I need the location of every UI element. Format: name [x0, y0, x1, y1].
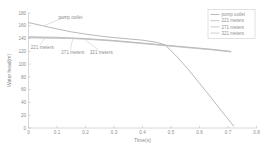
annotation-leader-line [86, 40, 99, 50]
chart-figure: 00.10.20.30.40.50.60.70.8020406080100120… [0, 0, 271, 149]
x-tick-label: 0.3 [111, 130, 118, 135]
y-tick-label: 160 [18, 23, 26, 28]
y-tick-label: 140 [18, 36, 26, 41]
x-tick-label: 0.1 [54, 130, 61, 135]
y-tick-label: 100 [18, 62, 26, 67]
legend-group: pump outlet221 meters271 meters321 meter… [208, 10, 255, 39]
legend-label-221-meters: 221 meters [222, 18, 245, 23]
x-tick-label: 0.5 [168, 130, 175, 135]
y-tick-label: 60 [21, 87, 27, 92]
y-axis-title: Water head(m) [6, 54, 12, 87]
y-tick-label: 80 [21, 75, 27, 80]
legend-label-pump-outlet: pump outlet [222, 12, 246, 17]
x-tick-label: 0.7 [225, 130, 232, 135]
y-tick-label: 40 [21, 100, 27, 105]
x-tick-label: 0.4 [139, 130, 146, 135]
x-tick-label: 0.2 [82, 130, 89, 135]
annotations-group: pump outlet221 meters271 meters321 meter… [31, 15, 114, 55]
y-tick-label: 180 [18, 11, 26, 16]
x-tick-label: 0.8 [253, 130, 260, 135]
y-tick-label: 20 [21, 113, 27, 118]
annotation-label-321-meters: 321 meters [90, 50, 114, 55]
x-tick-label: 0 [27, 130, 30, 135]
annotation-label-221-meters: 221 meters [31, 45, 55, 50]
annotation-label-pump-outlet: pump outlet [58, 15, 83, 20]
y-tick-label: 120 [18, 49, 26, 54]
legend-label-321-meters: 321 meters [222, 31, 245, 36]
series-line-321-meters [29, 38, 231, 52]
x-axis-title: Time(s) [134, 137, 151, 143]
legend-label-271-meters: 271 meters [222, 25, 245, 30]
annotation-leader-line [70, 39, 72, 50]
y-tick-label: 0 [24, 126, 27, 131]
plot-canvas: 00.10.20.30.40.50.60.70.8020406080100120… [0, 0, 271, 149]
series-group [29, 23, 234, 127]
series-line-271-meters [29, 37, 231, 51]
annotation-label-271-meters: 271 meters [61, 50, 85, 55]
x-tick-label: 0.6 [196, 130, 203, 135]
